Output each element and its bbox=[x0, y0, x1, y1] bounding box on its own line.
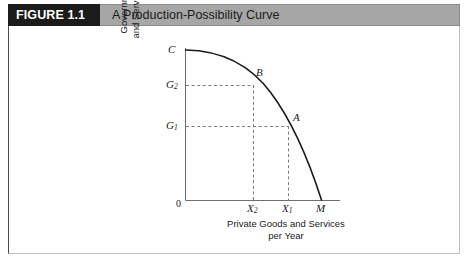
figure-container: FIGURE 1.1 A Production-Possibility Curv… bbox=[0, 0, 464, 258]
figure-header: FIGURE 1.1 A Production-Possibility Curv… bbox=[8, 4, 460, 26]
figure-number-label: FIGURE 1.1 bbox=[8, 4, 100, 26]
figure-body-frame bbox=[8, 26, 460, 254]
figure-title-label: A Production-Possibility Curve bbox=[100, 4, 460, 26]
